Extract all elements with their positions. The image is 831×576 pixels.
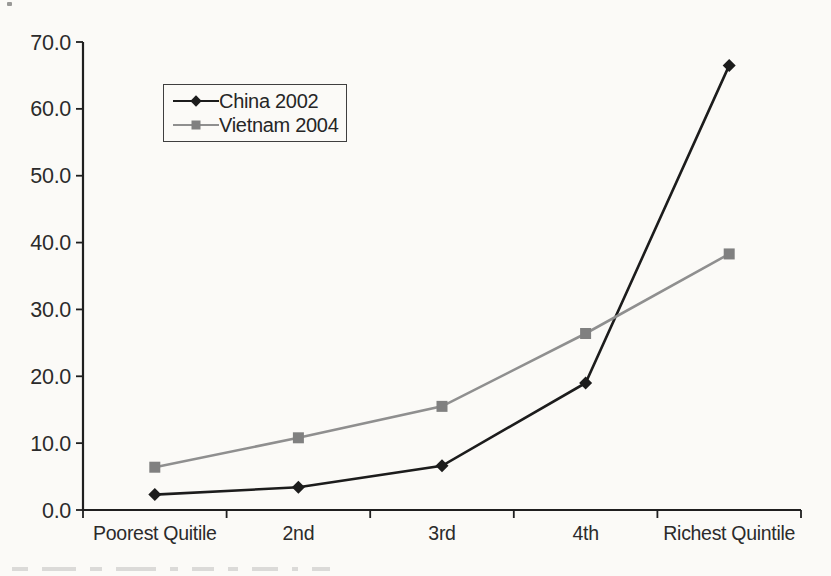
x-axis-category-label: 2nd — [283, 522, 315, 544]
scanned-line-chart-page: 0.010.020.030.040.050.060.070.0Poorest Q… — [0, 0, 831, 576]
y-axis-tick-label: 40.0 — [30, 231, 71, 255]
y-axis-tick-label: 30.0 — [30, 298, 71, 322]
data-point-marker-diamond — [579, 376, 592, 389]
legend-item-vietnam: Vietnam 2004 — [173, 115, 342, 135]
legend-label-china: China 2002 — [219, 91, 318, 111]
line-chart: 0.010.020.030.040.050.060.070.0Poorest Q… — [0, 0, 831, 576]
x-axis-category-label: Poorest Quitile — [93, 522, 216, 544]
cutoff-caption-remnant — [12, 567, 632, 573]
vietnam-series-swatch — [173, 119, 219, 132]
y-axis-tick-label: 10.0 — [30, 432, 71, 456]
data-point-marker-square — [149, 462, 160, 473]
scan-speck — [7, 2, 12, 6]
x-axis-category-label: 3rd — [428, 522, 455, 544]
data-point-marker-square — [437, 401, 448, 412]
data-point-marker-diamond — [148, 488, 161, 501]
data-point-marker-diamond — [723, 59, 736, 72]
china-series-swatch — [173, 95, 219, 108]
x-axis-category-label: 4th — [572, 522, 598, 544]
diamond-marker-icon — [190, 95, 201, 106]
y-axis-tick-label: 20.0 — [30, 365, 71, 389]
y-axis-tick-label: 70.0 — [30, 31, 71, 55]
data-point-marker-square — [724, 248, 735, 259]
x-axis-category-label: Richest Quintile — [663, 522, 795, 544]
legend-label-vietnam: Vietnam 2004 — [219, 115, 338, 135]
data-point-marker-square — [580, 328, 591, 339]
legend: China 2002 Vietnam 2004 — [163, 84, 347, 142]
y-axis-tick-label: 50.0 — [30, 164, 71, 188]
data-point-marker-diamond — [436, 459, 449, 472]
square-marker-icon — [192, 121, 201, 130]
data-point-marker-square — [293, 432, 304, 443]
y-axis-tick-label: 60.0 — [30, 97, 71, 121]
data-point-marker-diamond — [292, 481, 305, 494]
y-axis-tick-label: 0.0 — [42, 499, 71, 523]
series-line-1 — [155, 254, 729, 467]
legend-item-china: China 2002 — [173, 91, 342, 111]
